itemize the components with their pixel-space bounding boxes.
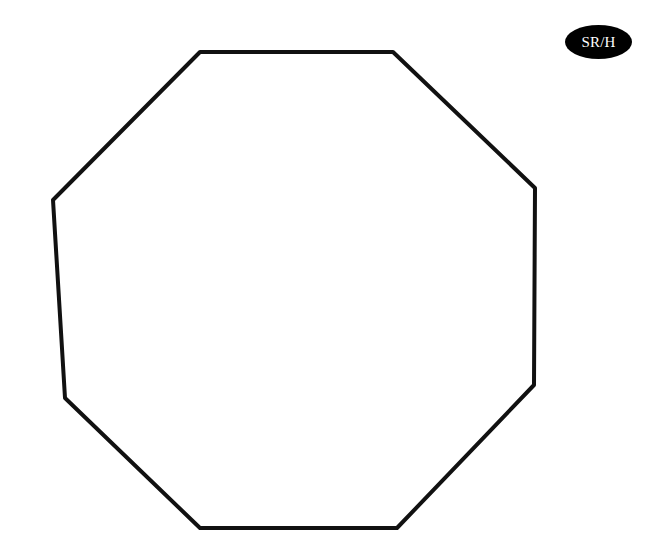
badge-label: SR/H <box>581 34 615 51</box>
sr-h-badge: SR/H <box>565 25 632 59</box>
octagon-canvas <box>0 0 653 556</box>
octagon-outline <box>53 52 535 528</box>
